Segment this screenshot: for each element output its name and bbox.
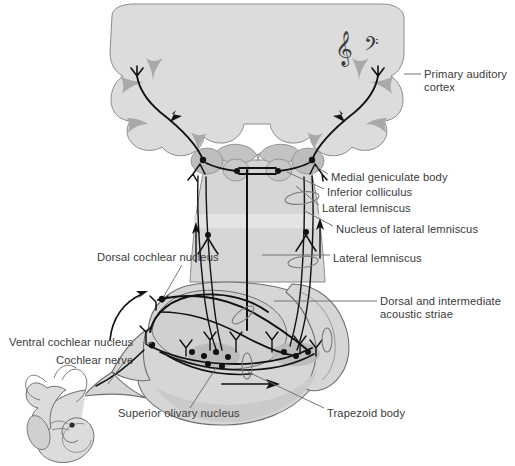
label-inferior-colliculus: Inferior colliculus — [327, 186, 412, 199]
figure-canvas: 𝄞 𝄢 — [0, 0, 515, 466]
label-nucleus-of-lateral-lemniscus: Nucleus of lateral lemniscus — [336, 223, 478, 236]
olive-cell-l5 — [205, 361, 211, 367]
treble-clef-icon: 𝄞 — [335, 30, 353, 67]
olive-cell-l1 — [189, 349, 195, 355]
inner-ear-group — [26, 365, 94, 462]
label-trapezoid-body: Trapezoid body — [327, 407, 405, 420]
olive-cell-l3 — [213, 349, 219, 355]
dcn-arrowhead — [136, 291, 148, 299]
label-medial-geniculate-body: Medial geniculate body — [331, 171, 448, 184]
label-superior-olivary-nucleus: Superior olivary nucleus — [118, 407, 240, 420]
olive-cell-l4 — [225, 354, 231, 360]
olive-cell-r1 — [281, 349, 287, 355]
olive-cell-r3 — [305, 349, 311, 355]
cerebrum-outline — [110, 4, 404, 156]
nll-cell-left — [205, 232, 211, 238]
nll-cell-right — [303, 229, 309, 235]
label-primary-auditory-cortex: Primary auditory cortex — [424, 68, 507, 94]
olive-cell-r2 — [293, 353, 299, 359]
label-lateral-lemniscus-upper: Lateral lemniscus — [322, 202, 411, 215]
label-cochlear-nerve: Cochlear nerve — [56, 354, 133, 367]
olive-cell-l2 — [201, 353, 207, 359]
label-dorsal-cochlear-nucleus: Dorsal cochlear nucleus — [97, 251, 219, 264]
label-ventral-cochlear-nucleus: Ventral cochlear nucleus — [9, 336, 133, 349]
round-window — [69, 422, 74, 427]
label-lateral-lemniscus-lower: Lateral lemniscus — [333, 252, 422, 265]
olive-cell-l6 — [219, 363, 225, 369]
cerebrum-group — [110, 4, 404, 156]
mgb-cell-left — [200, 157, 206, 163]
dcn-curved-arrow — [110, 294, 142, 340]
mgb-cell-right — [309, 157, 315, 163]
label-dorsal-and-intermediate-acoustic-striae: Dorsal and intermediate acoustic striae — [380, 295, 501, 321]
bass-clef-icon: 𝄢 — [364, 33, 379, 59]
midbrain-band — [194, 214, 321, 228]
